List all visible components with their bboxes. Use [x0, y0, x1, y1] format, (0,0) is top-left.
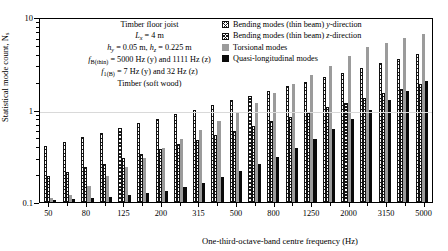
y-axis-tick	[36, 66, 39, 67]
x-axis-label: 800	[254, 209, 294, 218]
x-axis-tick	[123, 203, 124, 207]
x-axis-tick	[274, 203, 275, 207]
x-axis-tick	[386, 203, 387, 207]
bar-quasi_longitudinal	[313, 139, 316, 202]
x-axis-tick	[424, 203, 425, 207]
x-axis-label: 5000	[404, 209, 444, 218]
bar-quasi_longitudinal	[258, 164, 261, 202]
annot-f1B-subscript: 1(B)	[104, 70, 115, 77]
bar-quasi_longitudinal	[276, 157, 279, 202]
y-axis-tick	[34, 111, 39, 112]
legend-item-label: Bending modes (thin beam) z-direction	[233, 30, 361, 41]
bar-quasi_longitudinal	[109, 197, 112, 202]
bar-quasi_longitudinal	[91, 198, 94, 202]
annot-f1B-value: = 7 Hz (y) and 32 Hz (z)	[115, 67, 198, 76]
x-axis-tick	[198, 203, 199, 207]
annot-hy-value: = 0.05 m,	[114, 43, 150, 52]
y-axis-tick	[34, 203, 39, 204]
x-axis-tick	[311, 203, 312, 207]
annotation-line-4: fB(thin) = 5000 Hz (y) and 1111 Hz (z)	[62, 55, 237, 67]
bar-quasi_longitudinal	[128, 195, 131, 202]
y-axis-tick	[36, 32, 39, 33]
bar-quasi_longitudinal	[146, 193, 149, 202]
annotation-block: Timber floor joist Lx = 4 m hy = 0.05 m,…	[62, 20, 237, 90]
y-axis-label: 0.1	[7, 198, 33, 208]
x-axis-label: 125	[103, 209, 143, 218]
bar-quasi_longitudinal	[369, 110, 372, 203]
bar-quasi_longitudinal	[72, 199, 75, 202]
legend: Bending modes (thin beam) y-directionBen…	[222, 19, 430, 65]
y-axis-tick	[36, 147, 39, 148]
y-axis-tick	[36, 131, 39, 132]
bar-quasi_longitudinal	[425, 81, 428, 202]
annotation-line-6: Timber (soft wood)	[62, 79, 237, 90]
annotation-line-1: Timber floor joist	[62, 20, 237, 31]
gridline	[40, 112, 432, 113]
bar-quasi_longitudinal	[202, 183, 205, 202]
x-axis-tick	[67, 203, 68, 206]
x-axis-label: 3150	[366, 209, 406, 218]
bar-quasi_longitudinal	[221, 177, 224, 202]
x-axis-label: 50	[28, 209, 68, 218]
legend-item: Quasi-longitudinal modes	[222, 53, 430, 64]
legend-item: Torsional modes	[222, 42, 430, 53]
x-axis-tick	[161, 203, 162, 207]
annotation-line-3: hy = 0.05 m, hz = 0.225 m	[62, 43, 237, 55]
bar-quasi_longitudinal	[183, 187, 186, 202]
x-axis-tick	[349, 203, 350, 207]
annot-fB-value: = 5000 Hz (y) and 1111 Hz (z)	[108, 55, 210, 64]
y-axis-tick	[34, 18, 39, 19]
bar-quasi_longitudinal	[406, 91, 409, 202]
annotation-line-2: Lx = 4 m	[62, 31, 237, 43]
bar-quasi_longitudinal	[351, 119, 354, 202]
y-axis-tick	[36, 22, 39, 23]
bar-quasi_longitudinal	[239, 171, 242, 202]
x-axis-tick	[105, 203, 106, 206]
y-axis-tick	[36, 55, 39, 56]
x-axis-label: 500	[216, 209, 256, 218]
y-axis-tick	[36, 175, 39, 176]
x-axis-tick	[86, 203, 87, 207]
x-axis-title: One-third-octave-band centre frequency (…	[150, 236, 410, 246]
figure-root: Statistical mode count, Ns One-third-oct…	[0, 0, 448, 251]
bar-group	[41, 19, 60, 202]
legend-swatch-icon	[222, 55, 229, 62]
x-axis-tick	[405, 203, 406, 206]
bar-quasi_longitudinal	[295, 148, 298, 202]
legend-item-label: Quasi-longitudinal modes	[233, 53, 318, 64]
x-axis-label: 200	[141, 209, 181, 218]
y-axis-tick	[36, 115, 39, 116]
bar-quasi_longitudinal	[165, 191, 168, 202]
legend-item-label: Torsional modes	[233, 42, 287, 53]
x-axis-tick	[255, 203, 256, 206]
annot-fB-subscript: B(thin)	[91, 57, 109, 64]
y-axis-tick	[36, 125, 39, 126]
legend-item: Bending modes (thin beam) z-direction	[222, 30, 430, 41]
y-axis-tick	[36, 39, 39, 40]
annotation-line-5: f1(B) = 7 Hz (y) and 32 Hz (z)	[62, 67, 237, 79]
y-axis-tick	[36, 46, 39, 47]
x-axis-tick	[180, 203, 181, 206]
y-axis-tick	[36, 119, 39, 120]
annot-hz-value: = 0.225 m	[156, 43, 192, 52]
legend-swatch-icon	[222, 21, 229, 28]
x-axis-label: 315	[178, 209, 218, 218]
y-axis-title-subscript: s	[3, 33, 10, 35]
legend-swatch-icon	[222, 44, 229, 51]
x-axis-tick	[367, 203, 368, 206]
x-axis-tick	[48, 203, 49, 207]
bar-quasi_longitudinal	[388, 100, 391, 202]
y-axis-tick	[36, 159, 39, 160]
y-axis-label: 1	[7, 106, 33, 116]
legend-swatch-icon	[222, 33, 229, 40]
y-axis-label: 10	[7, 13, 33, 23]
bar-quasi_longitudinal	[53, 200, 56, 202]
x-axis-label: 2000	[329, 209, 369, 218]
x-axis-tick	[236, 203, 237, 207]
bar-quasi_longitudinal	[332, 129, 335, 202]
y-axis-tick	[36, 27, 39, 28]
x-axis-tick	[142, 203, 143, 206]
y-axis-title: Statistical mode count, Ns	[0, 0, 10, 167]
legend-item: Bending modes (thin beam) y-direction	[222, 19, 430, 30]
annot-L-value: = 4 m	[143, 31, 164, 40]
